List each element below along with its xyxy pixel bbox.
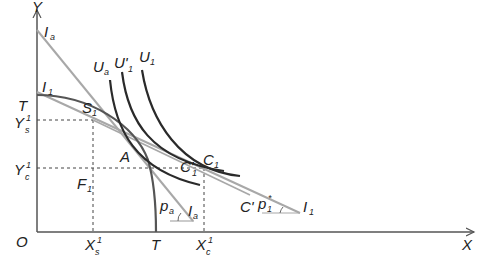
svg-text:1: 1: [97, 235, 102, 245]
trade-diagram: Y X O I a I 1 T T Y 1 s Y 1 c X 1 s X 1 …: [0, 0, 482, 264]
svg-text:1: 1: [48, 87, 53, 97]
svg-text:1: 1: [26, 160, 31, 170]
trade-slope-arc: [280, 207, 283, 213]
x-axis-label: X: [461, 236, 473, 253]
svg-text:a: a: [104, 67, 109, 77]
svg-text:1: 1: [128, 64, 133, 74]
svg-text:c: c: [25, 172, 30, 182]
svg-text:1: 1: [214, 160, 219, 170]
svg-text:I: I: [188, 202, 192, 219]
svg-text:Y: Y: [14, 114, 25, 131]
svg-text:a: a: [193, 211, 198, 221]
svg-text:p: p: [257, 195, 266, 212]
svg-text:1: 1: [309, 207, 314, 217]
svg-text:Y: Y: [14, 161, 25, 178]
ppf-label-x: T: [151, 236, 162, 253]
svg-text:C: C: [203, 151, 214, 168]
svg-text:S: S: [82, 99, 92, 116]
i1-end-label: I 1: [303, 198, 314, 217]
svg-text:s: s: [25, 125, 30, 135]
svg-text:F: F: [77, 175, 87, 192]
svg-text:c: c: [206, 247, 211, 257]
ys-tick-label: Y 1 s: [14, 113, 31, 135]
origin-label: O: [16, 233, 28, 250]
autarky-slope-arc: [178, 213, 181, 221]
svg-text:s: s: [95, 247, 100, 257]
ua-label: U a: [93, 58, 109, 77]
svg-text:U: U: [139, 48, 150, 65]
i1-left-label: I 1: [42, 78, 53, 97]
u1-label: U 1: [139, 48, 155, 67]
svg-text:a: a: [169, 206, 174, 216]
point-f1-label: F 1: [77, 175, 92, 194]
svg-text:1: 1: [267, 204, 272, 214]
u1-prime-label: U' 1: [114, 54, 133, 74]
svg-text:a: a: [50, 32, 55, 42]
svg-text:p: p: [159, 197, 168, 214]
svg-text:1: 1: [192, 168, 197, 178]
point-a-label: A: [119, 148, 130, 165]
svg-text:1: 1: [208, 235, 213, 245]
svg-text:U': U': [114, 54, 129, 71]
point-c1-label: C 1: [203, 151, 219, 170]
ia-slope-label: I a: [188, 202, 198, 221]
svg-text:I: I: [303, 198, 307, 215]
svg-text:I: I: [42, 78, 46, 95]
pa-label: p a: [159, 197, 174, 216]
xs-tick-label: X 1 s: [84, 235, 102, 257]
consumption-line: [93, 120, 250, 195]
ia-top-label: I a: [44, 23, 55, 42]
svg-text:*: *: [268, 193, 272, 203]
p1-star-label: p 1 *: [257, 193, 272, 214]
xc-tick-label: X 1 c: [195, 235, 213, 257]
y-axis-label: Y: [32, 0, 43, 15]
svg-text:1: 1: [87, 184, 92, 194]
svg-text:1: 1: [92, 108, 97, 118]
svg-text:U: U: [93, 58, 104, 75]
svg-text:I: I: [44, 23, 48, 40]
point-c-prime-label: C': [240, 198, 255, 215]
svg-text:1: 1: [150, 57, 155, 67]
ppf-label-y: T: [18, 97, 29, 114]
svg-text:1: 1: [26, 113, 31, 123]
yc-tick-label: Y 1 c: [14, 160, 31, 182]
